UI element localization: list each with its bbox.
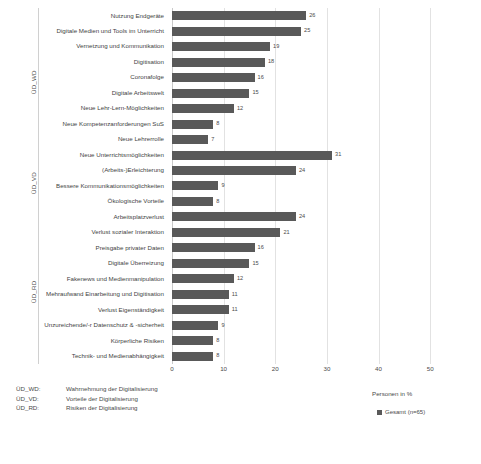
bar[interactable] xyxy=(172,58,265,67)
bar-row: 9 xyxy=(172,178,456,193)
category-axis-labels: Nutzung EndgeräteDigitale Medien und Too… xyxy=(0,8,168,364)
x-tick-label: 20 xyxy=(272,366,279,372)
legend: Gesamt (n=65) xyxy=(377,409,425,415)
bar-value-label: 8 xyxy=(216,338,219,344)
x-tick-label: 40 xyxy=(375,366,382,372)
category-label: Neue Lehr-Lern-Möglichkeiten xyxy=(81,105,164,111)
value-axis-ticks: 01020304050 xyxy=(172,366,456,378)
x-tick-label: 50 xyxy=(427,366,434,372)
bar-value-label: 12 xyxy=(237,276,243,282)
group-bracket xyxy=(38,147,39,209)
category-label: Vernetzung und Kommunikation xyxy=(76,43,164,49)
legend-swatch-icon xyxy=(377,410,382,415)
bar-value-label: 12 xyxy=(237,106,243,112)
bar-row: 19 xyxy=(172,39,456,54)
category-label: Fakenews und Medienmanipulation xyxy=(67,276,164,282)
bar[interactable] xyxy=(172,181,218,190)
bar-value-label: 15 xyxy=(252,90,258,96)
bar[interactable] xyxy=(172,197,213,206)
bar-rows: 262519181615128731249824211615121111988 xyxy=(172,8,456,364)
bar[interactable] xyxy=(172,42,270,51)
bar-row: 16 xyxy=(172,70,456,85)
category-label: Digitisation xyxy=(134,59,164,65)
footnote-key-label: ÜD_WD: xyxy=(16,384,66,394)
footnote-row: ÜD_VD:Vorteile der Digitalisierung xyxy=(16,394,158,404)
bar[interactable] xyxy=(172,259,249,268)
bar[interactable] xyxy=(172,151,332,160)
bar[interactable] xyxy=(172,73,255,82)
group-bracket xyxy=(38,8,39,147)
bar-row: 8 xyxy=(172,349,456,364)
bar-value-label: 16 xyxy=(258,75,264,81)
bar-row: 12 xyxy=(172,271,456,286)
bar-row: 9 xyxy=(172,318,456,333)
footnote-row: ÜD_WD:Wahrnehmung der Digitalisierung xyxy=(16,384,158,394)
category-label: Mehraufwand Einarbeitung und Digitisatio… xyxy=(46,291,164,297)
category-label: Bessere Kommunikationsmöglichkeiten xyxy=(56,183,164,189)
bar[interactable] xyxy=(172,166,296,175)
bar[interactable] xyxy=(172,212,296,221)
x-tick-label: 30 xyxy=(323,366,330,372)
bar-chart: Nutzung EndgeräteDigitale Medien und Too… xyxy=(0,0,481,464)
group-bracket xyxy=(38,209,39,364)
category-label: Körperliche Risiken xyxy=(111,338,164,344)
bar-value-label: 18 xyxy=(268,59,274,65)
bar-row: 26 xyxy=(172,8,456,23)
bar-value-label: 24 xyxy=(299,214,305,220)
footnote-key-label: ÜD_RD: xyxy=(16,403,66,413)
legend-label: Gesamt (n=65) xyxy=(385,409,425,415)
category-label: Verlust Eigenständigkeit xyxy=(98,307,164,313)
bar-value-label: 8 xyxy=(216,121,219,127)
footnote-description: Wahrnehmung der Digitalisierung xyxy=(66,384,158,394)
category-label: Ökologische Vorteile xyxy=(108,198,164,204)
bar-row: 24 xyxy=(172,163,456,178)
bar[interactable] xyxy=(172,243,255,252)
footnote-row: ÜD_RD:Risiken der Digitalisierung xyxy=(16,403,158,413)
category-label: Digitale Medien und Tools im Unterricht xyxy=(56,28,164,34)
footnote-description: Risiken der Digitalisierung xyxy=(66,403,138,413)
x-tick-label: 10 xyxy=(220,366,227,372)
axis-title: Personen in % xyxy=(372,390,412,397)
category-label: Arbeitsplatzverlust xyxy=(113,214,164,220)
bar-row: 16 xyxy=(172,240,456,255)
bar[interactable] xyxy=(172,274,234,283)
bar-value-label: 8 xyxy=(216,199,219,205)
bar-row: 11 xyxy=(172,287,456,302)
bar-value-label: 25 xyxy=(304,28,310,34)
bar-row: 21 xyxy=(172,225,456,240)
bar[interactable] xyxy=(172,104,234,113)
bar-value-label: 26 xyxy=(309,13,315,19)
bar-value-label: 19 xyxy=(273,44,279,50)
bar[interactable] xyxy=(172,120,213,129)
category-label: Neue Kompetenzanforderungen SuS xyxy=(63,121,164,127)
bar-value-label: 9 xyxy=(221,323,224,329)
bar[interactable] xyxy=(172,135,208,144)
bar-row: 18 xyxy=(172,54,456,69)
bar[interactable] xyxy=(172,352,213,361)
category-label: Digitale Arbeitswelt xyxy=(112,90,164,96)
bar[interactable] xyxy=(172,89,249,98)
bar-row: 25 xyxy=(172,23,456,38)
bar-row: 7 xyxy=(172,132,456,147)
bar-value-label: 8 xyxy=(216,353,219,359)
bar[interactable] xyxy=(172,27,301,36)
bar[interactable] xyxy=(172,336,213,345)
bar[interactable] xyxy=(172,321,218,330)
bar[interactable] xyxy=(172,11,306,20)
bar-value-label: 21 xyxy=(283,230,289,236)
bar-row: 11 xyxy=(172,302,456,317)
group-label: ÜD_WD xyxy=(30,70,37,94)
bar[interactable] xyxy=(172,228,280,237)
category-label: Digitale Überreizung xyxy=(108,260,164,266)
category-label: Unzureichende/-r Datenschutz & -sicherhe… xyxy=(44,322,164,328)
category-label: Technik- und Medienabhängigkeit xyxy=(72,353,164,359)
category-label: Coronafolge xyxy=(130,74,164,80)
bar[interactable] xyxy=(172,290,229,299)
category-label: Preisgabe privater Daten xyxy=(96,245,164,251)
plot-area: 262519181615128731249824211615121111988 xyxy=(172,8,456,364)
group-label: ÜD_RD xyxy=(30,280,37,302)
bar[interactable] xyxy=(172,305,229,314)
bar-row: 15 xyxy=(172,256,456,271)
category-label: Nutzung Endgeräte xyxy=(111,13,164,19)
category-label: Verlust sozialer Interaktion xyxy=(91,229,164,235)
